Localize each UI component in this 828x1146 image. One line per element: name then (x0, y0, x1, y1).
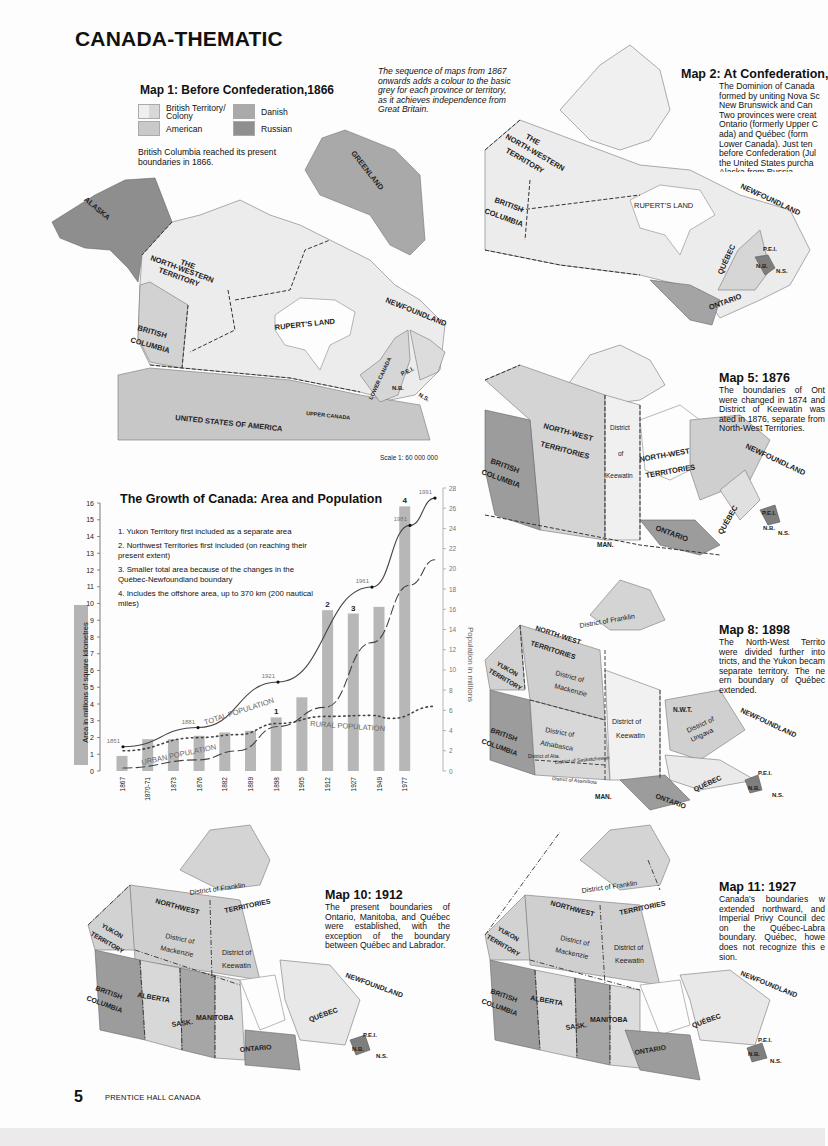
map10-description: The present boundaries of Ontario, Manit… (325, 903, 450, 951)
bar-1927 (348, 614, 359, 771)
map2-label-pei: P.E.I. (763, 246, 777, 252)
bar-1889 (245, 731, 256, 771)
bar-1898 (271, 717, 282, 771)
map11-alberta (535, 970, 577, 1058)
map10-label-ns: N.S. (376, 1053, 388, 1059)
population-point (408, 524, 411, 527)
map8-label-newfoundland: NEWFOUNDLAND (740, 707, 798, 739)
map8-label-keew1: District of (612, 718, 641, 725)
y-tick-label: 12 (86, 567, 94, 574)
map8-label-ns: N.S. (772, 792, 784, 798)
map8-label-keew2: Keewatin (616, 732, 645, 739)
y2-tick-label: 18 (449, 586, 457, 593)
y-tick-label: 11 (87, 583, 94, 590)
population-point (121, 745, 124, 748)
map11-label-keew2: Keewatin (615, 957, 644, 964)
y-tick-label: 5 (90, 684, 94, 691)
map10-hudson (240, 975, 285, 1030)
map2-label-ruperts-land: RUPERT'S LAND (634, 201, 694, 210)
population-point (370, 585, 373, 588)
x-tick-label: 1873 (170, 777, 177, 792)
map5-label-pei: P.E.I. (762, 510, 776, 516)
map5-label-keewatin: Keewatin (606, 472, 633, 479)
map11-description: Canada's boundaries w extended northward… (719, 895, 825, 962)
y2-tick-label: 20 (449, 565, 457, 572)
x-tick-label: 1905 (298, 777, 305, 792)
bar-1977 (399, 506, 410, 771)
map8-label-nwt-abbr: N.W.T. (673, 706, 692, 713)
y2-tick-label: 26 (449, 505, 457, 512)
y2-tick-label: 28 (449, 485, 457, 492)
map1-scale: Scale 1: 60 000 000 (380, 454, 438, 461)
population-point (433, 497, 436, 500)
y2-tick-label: 8 (449, 687, 453, 694)
x-tick-label: 1898 (273, 777, 280, 792)
population-point (276, 680, 279, 683)
map2-description: The Dominion of Canada formed by uniting… (719, 82, 825, 172)
x-tick-label: 1876 (196, 777, 203, 792)
page-number: 5 (74, 1088, 83, 1106)
y-tick-label: 10 (86, 600, 94, 607)
x-tick-label: 1867 (119, 777, 126, 792)
map5-label-ns: N.S. (778, 530, 790, 536)
map2-label-nb: N.B. (756, 263, 768, 269)
population-point-label: 1881 (182, 719, 196, 725)
y-tick-label: 3 (90, 717, 94, 724)
y-tick-label: 4 (90, 701, 94, 708)
map10-label-keew1: District of (222, 949, 251, 956)
population-point-label: 1851 (107, 738, 121, 744)
bar-1905 (296, 697, 307, 771)
map8-keewatin (605, 670, 660, 780)
y-tick-label: 6 (90, 667, 94, 674)
map11-hudson (640, 980, 690, 1035)
label-ns: N.S. (418, 392, 431, 403)
map10-title: Map 10: 1912 (325, 888, 403, 902)
map11-label-keew1: District of (614, 944, 643, 951)
chart-plot: 0123456789101112131415160246810121416182… (80, 485, 480, 815)
y-tick-label: 14 (86, 533, 94, 540)
population-point-label: 1921 (262, 673, 276, 679)
map8-label-pei: P.E.I. (758, 770, 772, 776)
growth-chart: The Growth of Canada: Area and Populatio… (80, 485, 480, 815)
y-tick-label: 13 (86, 550, 94, 557)
map10-label-manitoba: MANITOBA (196, 1014, 234, 1021)
y-tick-label: 2 (90, 734, 94, 741)
map5-description: The boundaries of Ont were changed in 18… (719, 386, 825, 434)
map5-label-quebec: QUÉBEC (716, 503, 740, 536)
map8-description: The North-West Territo were divided furt… (719, 638, 825, 696)
y-tick-label: 1 (90, 751, 94, 758)
y-tick-label: 7 (90, 650, 94, 657)
map10-alberta (140, 960, 182, 1050)
map5-label-nb: N.B. (763, 525, 775, 531)
map1: ALASKA GREENLAND THE NORTH-WESTERN TERRI… (52, 130, 448, 461)
population-point (196, 726, 199, 729)
bar-annotation: 3 (351, 604, 356, 613)
x-tick-label: 1977 (401, 777, 408, 792)
map10-nb (350, 1035, 370, 1055)
y2-tick-label: 16 (449, 606, 457, 613)
map8-label-man: MAN. (595, 793, 612, 800)
map5-title: Map 5: 1876 (719, 371, 790, 385)
bar-annotation: 2 (325, 600, 330, 609)
bar-1867 (117, 756, 128, 771)
x-tick-label: 1870-71 (144, 777, 151, 801)
map5-label-district: District (610, 424, 630, 431)
y2-tick-label: 6 (449, 707, 453, 714)
y-tick-label: 8 (90, 634, 94, 641)
bar-annotation: 4 (402, 496, 407, 505)
population-point-label: 1991 (419, 489, 433, 495)
map8-label-nb: N.B. (748, 785, 760, 791)
bar-1912 (322, 610, 333, 771)
label-nb: N.B. (392, 385, 404, 391)
map11-label-terr: TERRITORIES (619, 899, 667, 916)
map11-label-manitoba: MANITOBA (590, 1016, 628, 1023)
bar-annotation: 1 (274, 707, 279, 716)
y-tick-label: 16 (86, 500, 94, 507)
map10-label-nb: N.B. (352, 1046, 364, 1052)
bar-1949 (374, 607, 385, 771)
map2-label-ns: N.S. (776, 268, 788, 274)
y2-tick-label: 10 (449, 666, 457, 673)
map11-title: Map 11: 1927 (719, 880, 796, 894)
map5-keewatin (605, 395, 640, 540)
x-tick-label: 1949 (376, 777, 383, 792)
